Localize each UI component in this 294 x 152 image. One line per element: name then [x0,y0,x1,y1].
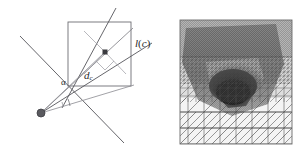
crossing-line-diagonal [20,36,124,143]
line-l-of-c [41,43,152,113]
geometric-diagram-panel: l(c) dc α [0,0,172,152]
label-line-l-of-c: l(c) [135,38,150,49]
ray-to-center-dc [41,52,105,113]
ray-lower [41,85,134,113]
apex-point [37,109,45,117]
adaptive-mesh-svg [172,0,294,152]
label-angle-alpha: α [61,78,66,87]
mesh-body [180,20,292,144]
adaptive-mesh-panel [172,0,294,152]
center-point [103,50,108,55]
label-distance-dc: dc [84,70,93,82]
figure-container: l(c) dc α [0,0,294,152]
